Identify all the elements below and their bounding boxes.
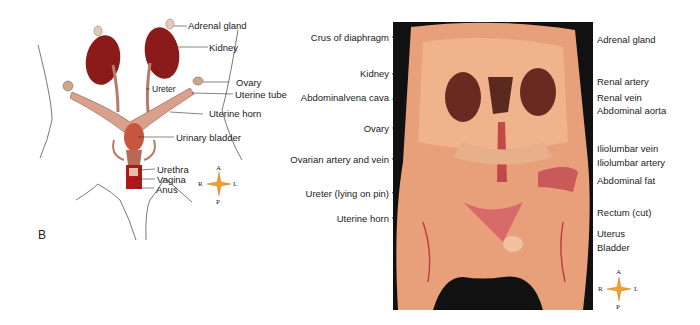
panel-letter: B <box>38 228 46 242</box>
compass-a-photo: A <box>616 268 621 276</box>
label-abdominal-aorta: Abdominal aorta <box>597 105 666 116</box>
kidney-right <box>141 24 184 81</box>
compass-r: R <box>198 180 203 188</box>
label-vena-cava: Abdominalvena cava <box>301 92 389 103</box>
label-uterus: Uterus <box>597 228 625 239</box>
label-uterine-horn-photo: Uterine horn <box>337 213 389 224</box>
compass-l-photo: L <box>634 285 638 293</box>
compass-l: L <box>233 180 237 188</box>
kidney-left <box>82 32 124 87</box>
label-rectum: Rectum (cut) <box>597 207 651 218</box>
label-ovarian-artery-vein: Ovarian artery and vein <box>290 154 389 165</box>
compass-p: P <box>216 198 220 206</box>
label-bladder: Bladder <box>597 242 630 253</box>
label-adrenal-gland: Adrenal gland <box>188 20 247 31</box>
label-crus-of-diaphragm: Crus of diaphragm <box>311 32 389 43</box>
dissection-photo <box>393 22 593 310</box>
label-renal-vein: Renal vein <box>597 92 642 103</box>
compass-rose-icon <box>605 275 633 303</box>
label-ovary-photo: Ovary <box>364 123 389 134</box>
compass-rose-icon <box>205 170 233 198</box>
compass-a: A <box>216 164 221 172</box>
label-iliolumbar-vein: Iliolumbar vein <box>597 143 658 154</box>
label-adrenal-gland-photo: Adrenal gland <box>597 34 656 45</box>
label-uterine-horn: Uterine horn <box>209 108 261 119</box>
label-uterine-tube: Uterine tube <box>235 89 287 100</box>
label-ureter: Ureter <box>152 84 176 95</box>
label-ovary: Ovary <box>236 77 261 88</box>
label-renal-artery: Renal artery <box>597 76 649 87</box>
label-abdominal-fat: Abdominal fat <box>597 175 655 186</box>
label-urinary-bladder: Urinary bladder <box>176 132 241 143</box>
label-kidney-photo: Kidney <box>360 68 389 79</box>
label-kidney: Kidney <box>209 42 238 53</box>
compass-p-photo: P <box>616 303 620 311</box>
compass-r-photo: R <box>598 285 603 293</box>
label-anus: Anus <box>156 184 178 195</box>
label-iliolumbar-artery: Iliolumbar artery <box>597 157 665 168</box>
label-ureter-pin: Ureter (lying on pin) <box>306 188 389 199</box>
